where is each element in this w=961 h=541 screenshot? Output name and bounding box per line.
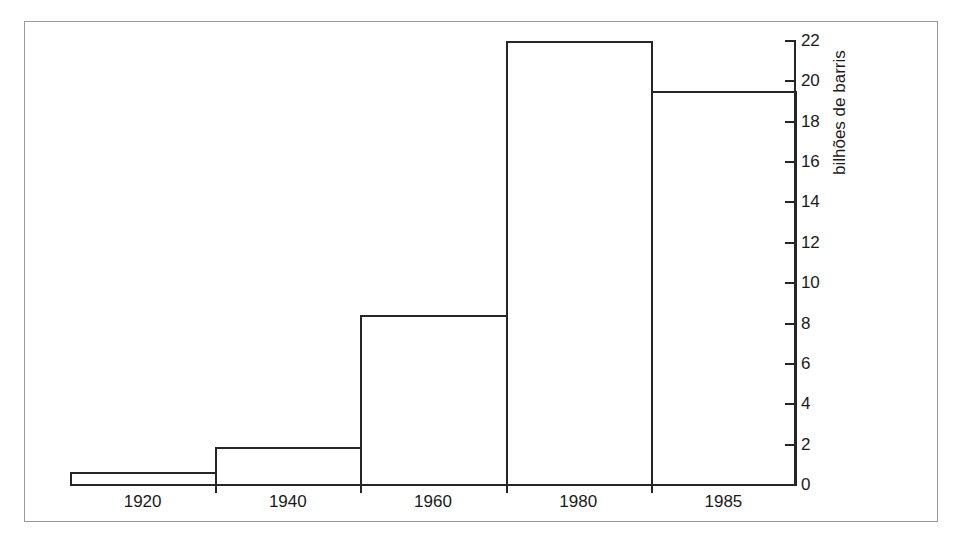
y-tick-label-22: 22 xyxy=(801,32,820,49)
y-tick-label-20: 20 xyxy=(801,72,820,89)
x-tick-label-1985: 1985 xyxy=(678,493,768,511)
y-tick-4 xyxy=(785,403,794,405)
y-axis-spine xyxy=(794,40,796,486)
y-axis-label: bilhões de barris xyxy=(831,15,848,175)
y-tick-label-8: 8 xyxy=(801,315,810,332)
y-tick-12 xyxy=(785,242,794,244)
y-tick-18 xyxy=(785,121,794,123)
x-tick-label-1980: 1980 xyxy=(533,493,623,511)
y-tick-6 xyxy=(785,363,794,365)
y-tick-label-4: 4 xyxy=(801,395,810,412)
y-tick-label-12: 12 xyxy=(801,234,820,251)
y-tick-10 xyxy=(785,282,794,284)
bar-1985 xyxy=(651,91,797,485)
y-tick-20 xyxy=(785,80,794,82)
x-axis-baseline xyxy=(70,484,797,486)
plot-area xyxy=(70,30,795,485)
x-tick-1940 xyxy=(215,486,217,493)
y-tick-label-14: 14 xyxy=(801,193,820,210)
y-tick-label-6: 6 xyxy=(801,355,810,372)
y-tick-label-2: 2 xyxy=(801,436,810,453)
bar-1980 xyxy=(506,41,653,485)
y-tick-label-0: 0 xyxy=(801,476,810,493)
y-tick-22 xyxy=(785,40,794,42)
chart-figure: 2220181614121086420 19201940196019801985… xyxy=(0,0,961,541)
y-tick-label-16: 16 xyxy=(801,153,820,170)
y-tick-8 xyxy=(785,323,794,325)
x-tick-label-1960: 1960 xyxy=(388,493,478,511)
x-tick-label-1920: 1920 xyxy=(98,493,188,511)
y-tick-2 xyxy=(785,444,794,446)
x-tick-1985 xyxy=(651,486,653,493)
x-tick-1960 xyxy=(360,486,362,493)
x-tick-1980 xyxy=(506,486,508,493)
y-tick-14 xyxy=(785,201,794,203)
bar-1940 xyxy=(215,447,362,485)
y-tick-label-10: 10 xyxy=(801,274,820,291)
y-tick-label-18: 18 xyxy=(801,113,820,130)
bar-1960 xyxy=(360,315,507,485)
y-tick-16 xyxy=(785,161,794,163)
x-tick-label-1940: 1940 xyxy=(243,493,333,511)
